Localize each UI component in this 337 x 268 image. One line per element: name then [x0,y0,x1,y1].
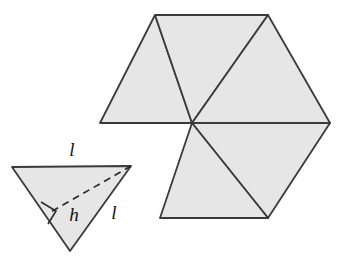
label-side-right: l [111,202,116,223]
figure-canvas: Equilateral triangle with altitude and h… [0,0,337,268]
label-altitude-h: h [69,204,79,225]
hexagon-net [100,15,330,218]
geometry-figure: Equilateral triangle with altitude and h… [0,0,337,268]
label-side-top: l [69,139,74,160]
labelled-triangle: l h l [12,139,131,251]
